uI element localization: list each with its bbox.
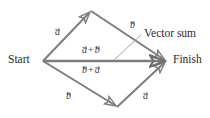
vector-glyph-b: b — [66, 91, 71, 101]
vector-arrow-overbar-icon — [95, 65, 100, 70]
vector-arrow-overbar-icon — [95, 45, 100, 50]
vector-glyph-a: a — [55, 27, 60, 37]
vector-arrow-overbar-icon — [143, 91, 148, 96]
edge-label-lower-right: a — [143, 86, 148, 102]
edge-label-upper-right: b — [130, 15, 135, 31]
vector-arrow-overbar-icon — [130, 20, 135, 25]
finish-label: Finish — [173, 54, 202, 66]
vector-arrow-overbar-icon — [55, 27, 60, 32]
vector-glyph-a: a — [143, 91, 148, 101]
start-label: Start — [8, 54, 30, 66]
diagonal-label-below: b +a — [82, 65, 100, 75]
callout-leader-line — [114, 35, 142, 61]
vector-glyph-b: b — [82, 65, 87, 75]
vector-glyph-b: b — [130, 20, 135, 30]
plus-operator: + — [87, 44, 95, 55]
diagonal-label-above: a +b — [82, 45, 100, 55]
edge-start-to-bottom — [43, 61, 116, 106]
vector-glyph-a: a — [82, 45, 87, 55]
edge-label-lower-left: b — [66, 86, 71, 102]
vector-glyph-b: b — [95, 45, 100, 55]
vector-glyph-a: a — [95, 65, 100, 75]
vector-arrow-overbar-icon — [82, 45, 87, 50]
vector-arrow-overbar-icon — [66, 91, 71, 96]
edge-label-upper-left: a — [55, 22, 60, 38]
vector-arrow-overbar-icon — [82, 65, 87, 70]
edge-bottom-to-finish — [117, 63, 165, 108]
vector-sum-callout-label: Vector sum — [144, 28, 196, 40]
plus-operator: + — [87, 64, 95, 75]
vector-sum-diagram: Start Finish Vector sum a b b a a — [0, 0, 210, 118]
